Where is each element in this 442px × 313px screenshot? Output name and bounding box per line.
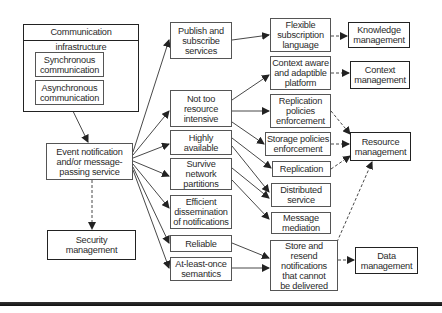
- property-reliable: Reliable: [170, 235, 232, 252]
- mechanism-store-and-resend: Store and resend notifications that cann…: [270, 240, 338, 291]
- property-at-least-once: At-least-once semantics: [170, 257, 232, 281]
- mechanism-flexible-subscription: Flexible subscription language: [270, 18, 331, 52]
- security-management-box: Security management: [47, 230, 136, 260]
- property-efficient-dissemination: Efficient dissemination of notifications: [170, 195, 232, 229]
- mechanism-distributed-service: Distributed service: [271, 183, 331, 207]
- property-publish-subscribe: Publish and subscribe services: [170, 22, 232, 59]
- mechanism-replication: Replication: [272, 161, 331, 177]
- data-management-box: Data management: [355, 247, 418, 274]
- bottom-divider: [0, 302, 442, 306]
- asynchronous-communication-box: Asynchronous communication: [35, 80, 104, 105]
- context-management-box: Context management: [350, 61, 410, 89]
- knowledge-management-box: Knowledge management: [348, 22, 410, 48]
- property-highly-available: Highly available: [170, 130, 232, 155]
- resource-management-box: Resource management: [350, 132, 411, 161]
- event-notification-service-box: Event notification and/or message- passi…: [46, 143, 133, 180]
- property-survive-partitions: Survive network partitions: [170, 158, 232, 190]
- communication-infrastructure-group: Communication infrastructure Synchronous…: [23, 24, 139, 112]
- mechanism-context-aware-platform: Context aware and adaptible platform: [270, 56, 331, 90]
- mechanism-replication-policies: Replication policies enforcement: [270, 94, 331, 128]
- mechanism-message-mediation: Message mediation: [271, 212, 331, 234]
- property-not-resource-intensive: Not too resource intensive: [170, 90, 232, 127]
- synchronous-communication-box: Synchronous communication: [35, 52, 104, 77]
- mechanism-storage-policies: Storage policies enforcement: [265, 132, 331, 156]
- communication-infrastructure-title: Communication infrastructure: [24, 25, 138, 41]
